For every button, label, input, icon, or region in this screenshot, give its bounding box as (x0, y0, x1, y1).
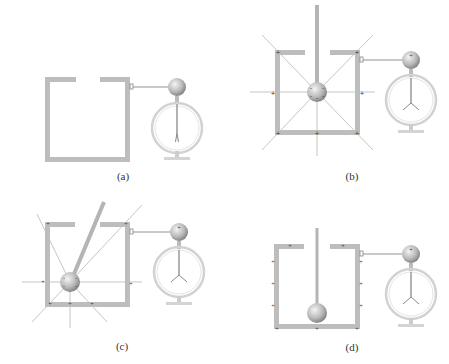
electroscope-base (398, 324, 424, 327)
diagram-canvas: -- -- - ++ ++ +++ + (0, 0, 449, 364)
insulating-rod (74, 202, 104, 274)
panel-b-label: (b) (346, 170, 359, 182)
discharged-ball (307, 303, 327, 323)
electroscope-base (398, 130, 424, 133)
connector-tab (360, 251, 363, 256)
svg-text:-: - (316, 94, 318, 101)
svg-text:-: - (322, 92, 324, 99)
connector-tab (130, 84, 133, 89)
electroscope: + (386, 245, 436, 327)
svg-text:+: + (275, 48, 280, 55)
electroscope-leaf (411, 297, 419, 304)
electroscope-leaf (177, 133, 179, 142)
svg-text:+: + (275, 129, 280, 136)
svg-text:+: + (270, 89, 275, 96)
pail (45, 77, 130, 162)
svg-text:+: + (359, 303, 363, 309)
electroscope-leaf (411, 103, 419, 110)
electroscope-leaf (171, 275, 179, 282)
electroscope: + (386, 51, 436, 133)
svg-text:-: - (310, 92, 312, 99)
svg-text:-: - (75, 275, 77, 281)
svg-text:-: - (63, 283, 65, 289)
svg-text:-: - (63, 275, 65, 281)
electroscope-leaf (403, 297, 411, 304)
svg-text:+: + (354, 48, 359, 55)
panel-c: -- -- ++ ++ +++ + (22, 202, 204, 328)
electroscope: + (154, 223, 204, 305)
panel-a (45, 77, 202, 162)
panel-d-label: (d) (346, 341, 359, 353)
svg-text:-: - (310, 84, 312, 91)
electroscope-leaf (403, 103, 411, 110)
electroscope (152, 78, 202, 160)
svg-text:+: + (359, 259, 363, 265)
panel-d: ++ +++ +++ +++ + (271, 228, 436, 332)
connector-tab (360, 57, 363, 62)
svg-text:-: - (322, 84, 324, 91)
svg-text:+: + (359, 281, 363, 287)
svg-text:-: - (75, 283, 77, 289)
panel-a-label: (a) (117, 170, 129, 182)
connector-tab (130, 229, 133, 234)
electroscope-base (164, 157, 190, 160)
electroscope-leaf (179, 275, 187, 282)
svg-text:+: + (354, 129, 359, 136)
charge-marks: -- -- ++ ++ +++ (41, 221, 133, 307)
electroscope-base (166, 302, 192, 305)
panel-c-label: (c) (116, 340, 128, 352)
electroscope-ball (168, 78, 186, 96)
pail (45, 222, 130, 307)
panel-b: -- -- - ++ ++ +++ + (250, 5, 436, 156)
svg-text:+: + (359, 89, 364, 96)
svg-text:+: + (314, 129, 319, 136)
